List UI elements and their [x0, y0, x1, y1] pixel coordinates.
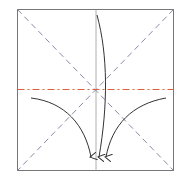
left-arrow	[31, 98, 91, 157]
right-arrow	[106, 98, 166, 157]
origami-diagram	[0, 0, 185, 178]
diagram-canvas	[0, 0, 185, 178]
center-arrow	[97, 15, 106, 157]
